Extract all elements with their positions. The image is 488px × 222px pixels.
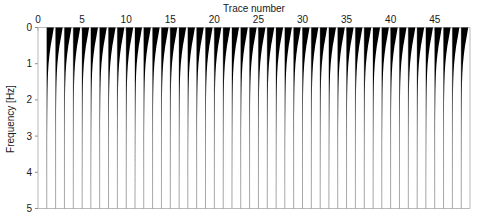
x-axis-label: Trace number: [223, 3, 286, 14]
y-tick-label: 2: [26, 94, 32, 105]
x-tick-label: 30: [297, 14, 309, 25]
x-tick-label: 25: [253, 14, 265, 25]
x-tick-label: 40: [385, 14, 397, 25]
y-tick-label: 4: [26, 167, 32, 178]
x-tick-label: 5: [79, 14, 85, 25]
figure-panel: Trace number Frequency [Hz] 051015202530…: [0, 0, 488, 222]
x-tick-label: 35: [341, 14, 353, 25]
y-axis-label: Frequency [Hz]: [5, 85, 16, 153]
x-tick-label: 0: [35, 14, 41, 25]
y-tick-label: 0: [26, 22, 32, 33]
x-tick-label: 20: [209, 14, 221, 25]
y-tick-label: 5: [26, 203, 32, 214]
x-tick-label: 15: [165, 14, 177, 25]
seismic-spectra-chart: Trace number Frequency [Hz] 051015202530…: [0, 0, 488, 222]
y-tick-label: 3: [26, 131, 32, 142]
y-tick-label: 1: [26, 58, 32, 69]
x-tick-label: 10: [121, 14, 133, 25]
x-tick-label: 45: [429, 14, 441, 25]
